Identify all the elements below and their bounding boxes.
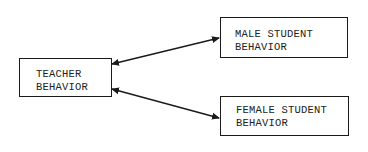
node-male-student-behavior: MALE STUDENT BEHAVIOR — [220, 17, 348, 58]
edge-teacher-female — [112, 89, 219, 118]
node-teacher-behavior: TEACHER BEHAVIOR — [19, 58, 112, 97]
node-label-line-2: BEHAVIOR — [36, 81, 111, 94]
node-label-line-1: FEMALE STUDENT — [236, 104, 348, 117]
node-label-line-2: BEHAVIOR — [235, 41, 347, 54]
edge-teacher-male — [112, 38, 219, 64]
node-label-line-2: BEHAVIOR — [236, 117, 348, 130]
node-label-line-1: TEACHER — [36, 68, 111, 81]
node-label-line-1: MALE STUDENT — [235, 28, 347, 41]
node-female-student-behavior: FEMALE STUDENT BEHAVIOR — [220, 96, 349, 136]
